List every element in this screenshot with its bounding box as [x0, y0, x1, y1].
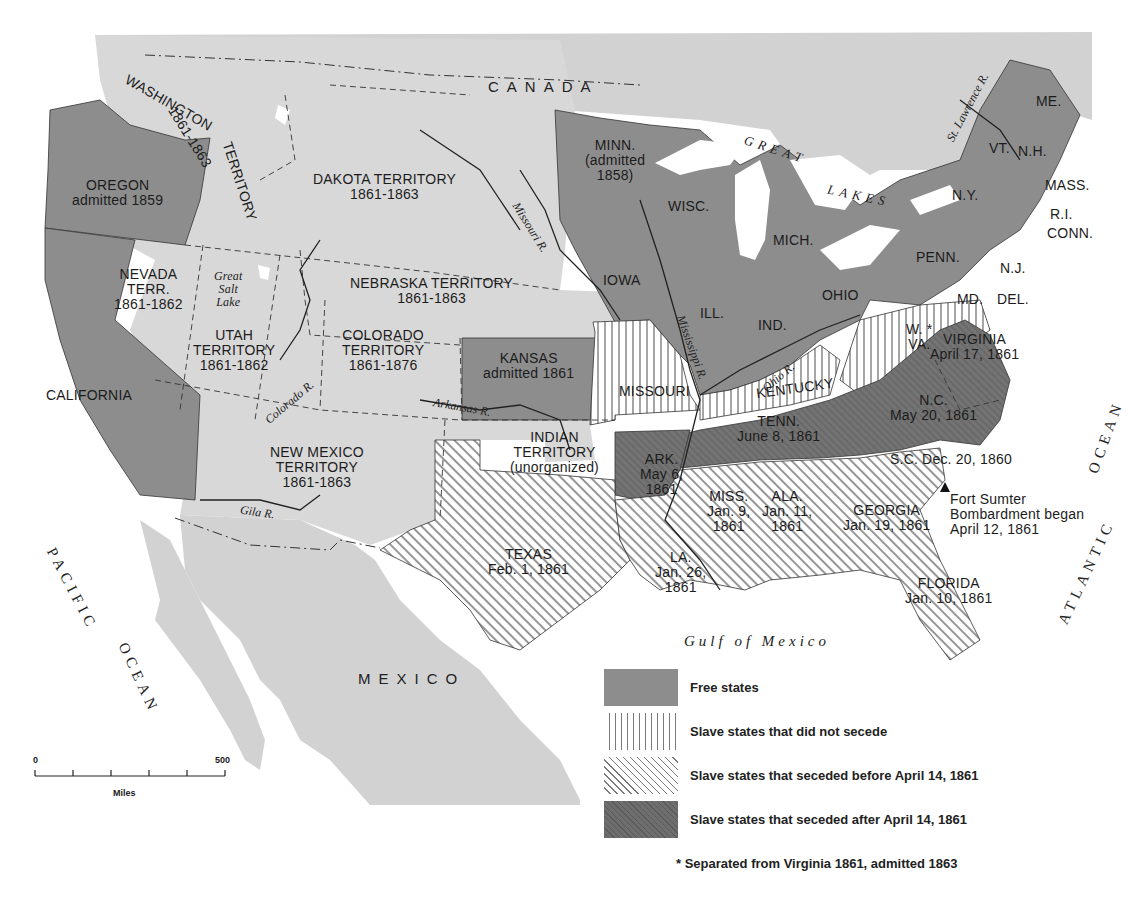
label-south-carolina: S.C. Dec. 20, 1860: [890, 452, 1012, 467]
legend-swatch-free: [604, 669, 678, 706]
label-florida: FLORIDA Jan. 10, 1861: [905, 576, 992, 606]
label-connecticut: CONN.: [1047, 226, 1093, 241]
scale-end: 500: [215, 755, 230, 765]
legend-swatch-diagonal-hatch: [604, 757, 678, 794]
scale-units: Miles: [113, 788, 136, 798]
label-virginia: VIRGINIA April 17, 1861: [930, 332, 1019, 362]
legend-swatch-vertical-hatch: [604, 713, 678, 750]
label-massachusetts: MASS.: [1045, 178, 1090, 193]
label-california: CALIFORNIA: [46, 388, 132, 403]
label-missouri: MISSOURI: [619, 384, 690, 399]
legend-footnote: * Separated from Virginia 1861, admitted…: [676, 856, 958, 871]
label-colorado: COLORADO TERRITORY 1861-1876: [342, 328, 424, 373]
legend-swatch-dark: [604, 801, 678, 838]
label-texas: TEXAS Feb. 1, 1861: [488, 547, 569, 577]
legend-label: Slave states that seceded before April 1…: [690, 768, 979, 783]
scale-bar-graphic: [35, 770, 225, 776]
label-iowa: IOWA: [603, 273, 641, 288]
label-west-virginia: W. * VA.: [906, 322, 932, 352]
label-new-hampshire: N.H.: [1018, 144, 1047, 159]
country-label-mexico: MEXICO: [358, 670, 465, 687]
label-vermont: VT.: [989, 141, 1010, 156]
label-georgia: GEORGIA Jan. 19, 1861: [843, 503, 930, 533]
legend: Free states Slave states that did not se…: [604, 665, 979, 841]
label-louisiana: LA. Jan. 26, 1861: [655, 550, 706, 595]
label-alabama: ALA. Jan. 11, 1861: [762, 489, 812, 534]
label-tennessee: TENN. June 8, 1861: [737, 414, 820, 444]
legend-item-free: Free states: [604, 665, 979, 709]
water-label-gulf: Gulf of Mexico: [684, 633, 830, 650]
label-nebraska: NEBRASKA TERRITORY 1861-1863: [350, 276, 513, 306]
label-north-carolina: N.C. May 20, 1861: [890, 393, 977, 423]
label-dakota: DAKOTA TERRITORY 1861-1863: [313, 172, 456, 202]
label-oregon: OREGON admitted 1859: [72, 178, 163, 208]
label-mississippi: MISS. Jan. 9, 1861: [707, 489, 750, 534]
label-michigan: MICH.: [773, 233, 814, 248]
legend-item-seceded-after: Slave states that seceded after April 14…: [604, 797, 979, 841]
legend-label: Slave states that seceded after April 14…: [690, 812, 967, 827]
label-indiana: IND.: [758, 318, 787, 333]
legend-label: Slave states that did not secede: [690, 724, 887, 739]
label-nevada: NEVADA TERR. 1861-1862: [114, 267, 183, 312]
label-new-jersey: N.J.: [1000, 261, 1026, 276]
legend-item-seceded-before: Slave states that seceded before April 1…: [604, 753, 979, 797]
label-minnesota: MINN. (admitted 1858): [585, 138, 645, 183]
label-maine: ME.: [1036, 94, 1062, 109]
label-ohio: OHIO: [822, 288, 859, 303]
label-wisconsin: WISC.: [668, 199, 709, 214]
label-new-mexico: NEW MEXICO TERRITORY 1861-1863: [270, 445, 364, 490]
label-great-salt-lake: Great Salt Lake: [214, 270, 243, 309]
label-pennsylvania: PENN.: [916, 250, 960, 265]
label-illinois: ILL.: [700, 306, 724, 321]
legend-item-slave-not-seceded: Slave states that did not secede: [604, 709, 979, 753]
label-new-york: N.Y.: [952, 188, 978, 203]
fort-sumter-annotation: Fort Sumter Bombardment began April 12, …: [950, 492, 1084, 537]
label-utah: UTAH TERRITORY 1861-1862: [193, 328, 275, 373]
label-indian-territory: INDIAN TERRITORY (unorganized): [510, 430, 599, 475]
label-maryland: MD.: [957, 292, 983, 307]
legend-label: Free states: [690, 680, 759, 695]
label-rhode-island: R.I.: [1050, 207, 1073, 222]
label-delaware: DEL.: [997, 292, 1029, 307]
scale-start: 0: [33, 755, 38, 765]
label-arkansas: ARK. May 6, 1861: [640, 452, 683, 497]
country-label-canada: CANADA: [488, 78, 599, 95]
label-kansas: KANSAS admitted 1861: [483, 351, 574, 381]
